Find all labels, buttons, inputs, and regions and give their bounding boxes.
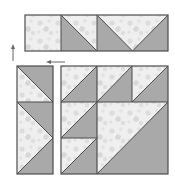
top-row [25, 15, 168, 51]
hst-r2c1 [61, 102, 97, 138]
top-plain-square [25, 15, 61, 51]
arrow-up-icon [11, 44, 15, 61]
hst-r3c1 [61, 138, 97, 174]
left-hst [17, 66, 53, 102]
hst-r1c1 [61, 66, 97, 102]
hst-r1c3 [132, 66, 168, 102]
main-grid [61, 66, 168, 174]
left-flying-geese [17, 102, 53, 174]
left-column [17, 66, 53, 174]
hst-r1c2 [97, 66, 132, 102]
top-flying-geese [97, 15, 168, 51]
top-hst [61, 15, 97, 51]
arrow-left-icon [46, 60, 65, 64]
quilt-assembly-diagram [0, 0, 175, 187]
large-hst [97, 102, 168, 174]
